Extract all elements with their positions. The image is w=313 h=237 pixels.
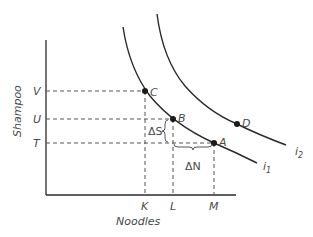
- delta-s-label: ΔS: [148, 125, 163, 138]
- x-tick-m: M: [209, 200, 219, 213]
- indifference-curve-i2: [157, 14, 286, 145]
- x-axis-title: Noodles: [116, 215, 160, 228]
- indifference-curve-diagram: C B A D V U T K L M Noodles Shampoo ΔS Δ…: [0, 0, 313, 237]
- dashed-guides: [46, 91, 214, 195]
- y-axis-title: Shampoo: [11, 85, 24, 137]
- delta-n-label: ΔN: [185, 160, 201, 173]
- point-b-label: B: [178, 112, 186, 125]
- delta-s-brace: [162, 120, 168, 142]
- x-tick-l: L: [170, 200, 176, 213]
- point-a-label: A: [218, 136, 227, 149]
- curve-i1-label: i1: [263, 160, 271, 175]
- y-tick-u: U: [33, 113, 41, 126]
- point-c-label: C: [150, 86, 158, 99]
- point-b: [170, 116, 176, 122]
- y-tick-t: T: [33, 137, 41, 150]
- y-tick-v: V: [33, 85, 42, 98]
- delta-n-brace: [174, 144, 212, 150]
- point-d-label: D: [242, 117, 250, 130]
- point-d: [234, 121, 240, 127]
- x-tick-k: K: [141, 200, 149, 213]
- point-c: [142, 88, 148, 94]
- curve-i2-label: i2: [295, 145, 303, 160]
